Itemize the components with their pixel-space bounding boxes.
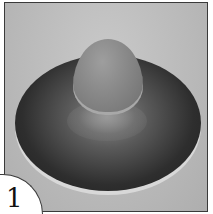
photo-frame xyxy=(4,2,208,212)
dome xyxy=(73,39,143,115)
figure-number: 1 xyxy=(6,185,23,211)
